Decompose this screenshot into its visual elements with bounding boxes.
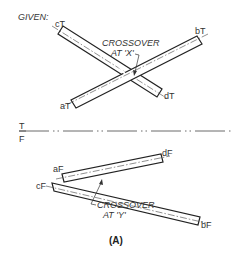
crossover-x-note-line1: CROSSOVER	[102, 38, 160, 48]
crossover-y-note-line1: CROSSOVER	[97, 200, 155, 210]
top-view-point-d: dT	[164, 91, 175, 101]
front-view-point-a: aF	[53, 164, 64, 174]
crossover-x-note-line2: AT 'X'	[110, 48, 134, 58]
descriptive-geometry-diagram: GIVEN: cT bT aT dT CROSSOVER AT 'X' T F …	[0, 0, 239, 268]
fold-line-label-t: T	[19, 121, 25, 131]
crossover-y-note-line2: AT 'Y'	[102, 210, 126, 220]
figure-caption: (A)	[109, 235, 123, 246]
front-view-point-c: cF	[36, 181, 47, 191]
front-view-point-d: dF	[162, 148, 173, 158]
top-view-point-b: bT	[195, 26, 206, 36]
front-view-bar-ad	[56, 154, 170, 182]
top-view-point-a: aT	[60, 101, 71, 111]
front-view-point-b: bF	[201, 220, 212, 230]
given-label: GIVEN:	[18, 12, 49, 22]
fold-line-label-f: F	[19, 134, 25, 144]
top-view-point-c: cT	[55, 19, 66, 29]
